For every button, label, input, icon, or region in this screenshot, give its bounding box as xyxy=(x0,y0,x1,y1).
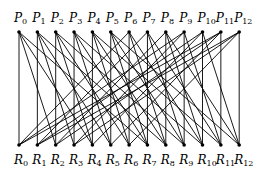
top-node-label: P4 xyxy=(86,11,100,26)
bottom-node-label: R9 xyxy=(178,153,193,168)
edge xyxy=(19,32,221,145)
bottom-node xyxy=(164,143,168,147)
top-node-label: P5 xyxy=(105,11,119,26)
top-node-label: P2 xyxy=(50,11,64,26)
edge xyxy=(37,32,239,145)
bottom-node-label: R11 xyxy=(215,153,235,168)
bottom-node xyxy=(219,143,223,147)
top-node xyxy=(91,30,95,34)
top-node xyxy=(219,30,223,34)
bottom-node-label: R5 xyxy=(105,153,120,168)
top-node-label: P9 xyxy=(178,11,192,26)
top-node xyxy=(109,30,113,34)
bottom-node xyxy=(109,143,113,147)
bottom-node xyxy=(146,143,150,147)
bottom-node-label: R10 xyxy=(197,153,217,168)
bipartite-graph: P0R0P1R1P2R2P3R3P4R4P5R5P6R6P7R7P8R8P9R9… xyxy=(0,0,263,173)
top-node-label: P3 xyxy=(68,11,82,26)
top-node xyxy=(146,30,150,34)
bottom-node-label: R8 xyxy=(160,153,175,168)
top-node-label: P10 xyxy=(197,11,216,26)
top-node xyxy=(36,30,40,34)
bottom-node xyxy=(72,143,76,147)
top-node xyxy=(54,30,58,34)
bottom-node xyxy=(91,143,95,147)
bottom-node xyxy=(201,143,205,147)
top-node-label: P8 xyxy=(160,11,174,26)
bottom-node-label: R12 xyxy=(233,153,253,168)
bottom-node xyxy=(17,143,21,147)
top-node xyxy=(201,30,205,34)
top-node xyxy=(237,30,241,34)
top-node xyxy=(17,30,21,34)
bottom-node xyxy=(127,143,131,147)
edge xyxy=(111,32,239,145)
top-node-label: P0 xyxy=(13,11,27,26)
bottom-node-label: R3 xyxy=(68,153,83,168)
bottom-node-label: R2 xyxy=(50,153,65,168)
edge xyxy=(19,32,147,145)
edge xyxy=(19,32,184,145)
bottom-node-label: R7 xyxy=(141,153,156,168)
top-node-label: P12 xyxy=(233,11,252,26)
top-node-label: P11 xyxy=(215,11,234,26)
bottom-node-label: R6 xyxy=(123,153,138,168)
top-node-label: P6 xyxy=(123,11,137,26)
top-node xyxy=(164,30,168,34)
bottom-node-label: R4 xyxy=(86,153,101,168)
bottom-node-label: R1 xyxy=(31,153,46,168)
top-node-label: P7 xyxy=(141,11,155,26)
top-node xyxy=(182,30,186,34)
edge xyxy=(74,32,239,145)
top-node-label: P1 xyxy=(31,11,45,26)
bottom-node xyxy=(36,143,40,147)
bottom-node xyxy=(237,143,241,147)
edges xyxy=(19,32,239,145)
bottom-node xyxy=(182,143,186,147)
top-node xyxy=(72,30,76,34)
top-node xyxy=(127,30,131,34)
bottom-node xyxy=(54,143,58,147)
bottom-node-label: R0 xyxy=(13,153,28,168)
